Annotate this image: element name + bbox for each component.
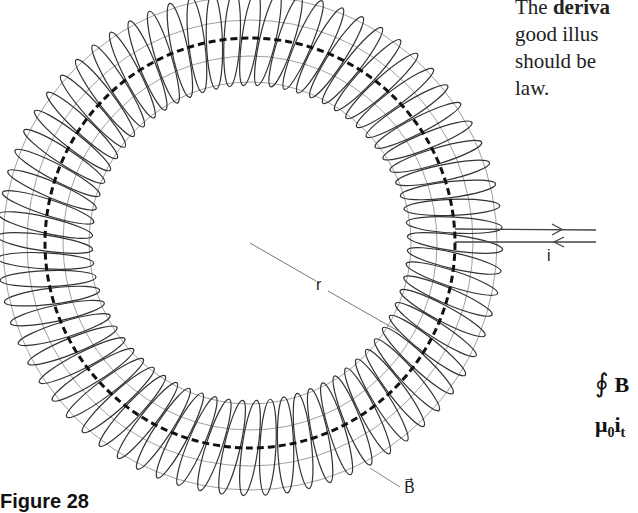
contour-integral-icon: ∮ [595,369,609,398]
mu-symbol: μ [595,412,607,437]
current-label: i [547,247,551,265]
radius-line [250,243,316,281]
figure-caption: Figure 28 [0,490,89,513]
body-text: The deriva good illus should be law. [515,0,638,102]
vector-b: B⃗ [615,372,638,397]
text-line2: good illus [515,21,638,48]
equation-line-integral: ∮ B⃗ [595,368,638,399]
text-line1-bold: deriva [553,0,610,19]
text-line3: should be [515,48,638,75]
text-line1-prefix: The [515,0,553,19]
field-leader-line [370,468,400,487]
equation-mu-i: μ0it [595,412,625,441]
current-leads [455,224,596,247]
current-subscript: t [621,425,626,440]
toroid-coil-windings [0,0,504,497]
field-label: B⃗ [404,478,415,497]
radius-label: r [316,276,321,294]
radius-line-2 [328,291,400,332]
text-line4: law. [515,75,638,102]
